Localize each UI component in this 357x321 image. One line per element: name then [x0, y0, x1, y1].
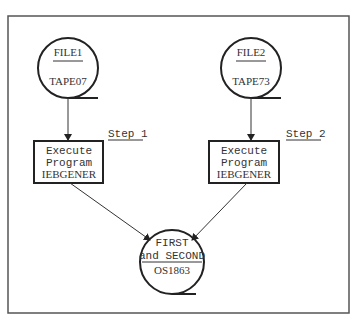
- output-line1: FIRST: [155, 237, 188, 249]
- step1-label: Step 1: [108, 128, 148, 140]
- tape-file2: FILE2 TAPE73: [221, 38, 281, 98]
- step1-line1: Execute: [46, 145, 92, 157]
- edge-step2-output: [192, 183, 247, 240]
- output-volume: OS1863: [154, 264, 191, 276]
- file2-volume: TAPE73: [232, 75, 270, 87]
- tape-output: FIRST and SECOND OS1863: [139, 230, 205, 294]
- step2-line3: IEBGENER: [217, 168, 272, 180]
- step2-box: Execute Program IEBGENER: [209, 141, 279, 183]
- flowchart-canvas: FILE1 TAPE07 FILE2 TAPE73 Execute Progra…: [0, 0, 357, 321]
- file1-volume: TAPE07: [49, 75, 87, 87]
- step2-label: Step 2: [286, 128, 326, 140]
- file1-name: FILE1: [54, 46, 83, 58]
- step1-line3: IEBGENER: [42, 168, 97, 180]
- tape-file1: FILE1 TAPE07: [38, 38, 98, 98]
- step2-line1: Execute: [221, 145, 267, 157]
- output-line2: and SECOND: [139, 250, 205, 262]
- file2-name: FILE2: [237, 46, 266, 58]
- step1-box: Execute Program IEBGENER: [34, 141, 103, 183]
- edge-step1-output: [70, 183, 150, 240]
